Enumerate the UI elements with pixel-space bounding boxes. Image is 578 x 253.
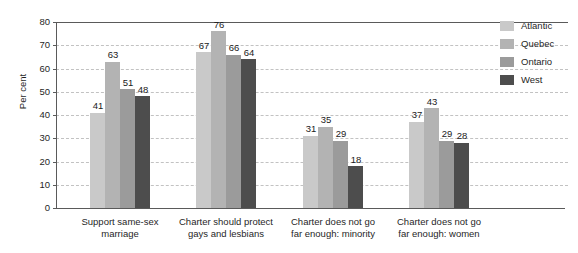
bar	[303, 136, 318, 208]
category-label-line: Charter does not go	[364, 216, 514, 228]
bar	[226, 55, 241, 208]
bar	[196, 52, 211, 208]
legend-label: West	[521, 75, 542, 85]
y-axis-tick-label: 70	[18, 40, 50, 50]
bar-value-label: 35	[315, 115, 337, 125]
bar	[241, 59, 256, 208]
legend-item[interactable]: Ontario	[500, 54, 576, 70]
bar	[409, 122, 424, 208]
bar-value-label: 18	[345, 155, 367, 165]
y-axis-tick-label: 10	[18, 180, 50, 190]
bar-group: 37432928	[409, 22, 469, 208]
plot-area: 41635148677666643135291837432928	[56, 22, 568, 208]
legend-swatch	[500, 39, 514, 49]
bar-group: 67766664	[196, 22, 256, 208]
bar-value-label: 63	[102, 50, 124, 60]
legend-item[interactable]: Atlantic	[500, 18, 576, 34]
bar	[333, 141, 348, 208]
legend: AtlanticQuebecOntarioWest	[500, 18, 576, 90]
y-axis-tick-label: 80	[18, 17, 50, 27]
legend-swatch	[500, 57, 514, 67]
legend-swatch	[500, 21, 514, 31]
bar-value-label: 76	[208, 20, 230, 30]
y-axis-line	[56, 22, 57, 208]
bar	[348, 166, 363, 208]
bar	[120, 89, 135, 208]
x-axis-category-label: Charter does not gofar enough: women	[364, 216, 514, 240]
bar	[135, 96, 150, 208]
legend-label: Ontario	[521, 57, 552, 67]
bar	[90, 113, 105, 208]
bar-value-label: 48	[132, 85, 154, 95]
legend-item[interactable]: Quebec	[500, 36, 576, 52]
y-axis-title: Per cent	[17, 62, 28, 122]
bar-value-label: 29	[330, 129, 352, 139]
legend-label: Quebec	[521, 39, 554, 49]
bar-group: 31352918	[303, 22, 363, 208]
y-axis-tick-label: 30	[18, 133, 50, 143]
bar	[439, 141, 454, 208]
legend-swatch	[500, 75, 514, 85]
bar	[454, 143, 469, 208]
legend-item[interactable]: West	[500, 72, 576, 88]
y-axis-tick-label: 20	[18, 157, 50, 167]
bar-group: 41635148	[90, 22, 150, 208]
legend-label: Atlantic	[521, 21, 552, 31]
bar-value-label: 28	[451, 131, 473, 141]
x-axis-line	[55, 208, 565, 209]
bar	[424, 108, 439, 208]
bar	[318, 127, 333, 208]
bar-value-label: 64	[238, 48, 260, 58]
bar	[211, 31, 226, 208]
bar-chart: Per cent 01020304050607080 4163514867766…	[0, 0, 578, 253]
category-label-line: far enough: women	[364, 228, 514, 240]
bar-value-label: 43	[421, 97, 443, 107]
y-axis-tick-label: 0	[18, 203, 50, 213]
